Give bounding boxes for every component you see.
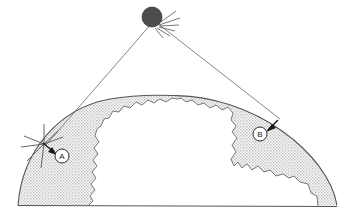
diagram-svg: A B	[0, 0, 354, 224]
point-b-text: B	[257, 130, 262, 139]
ground-baseline	[18, 206, 337, 207]
point-a-text: A	[59, 152, 65, 161]
point-b-label: B	[253, 127, 267, 141]
diagram-canvas: A B	[0, 0, 354, 224]
point-a-label: A	[55, 149, 69, 163]
high-altitude-burst-icon	[142, 7, 180, 38]
